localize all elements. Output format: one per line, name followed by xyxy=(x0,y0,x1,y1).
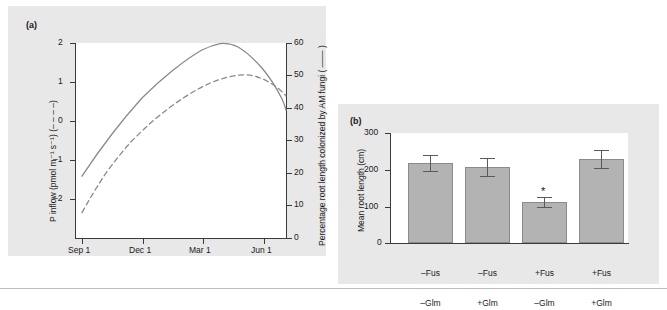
caption-divider xyxy=(0,288,667,289)
error-bar-cap-top-4 xyxy=(594,150,609,151)
xcat-label-3: +Fus –Glm xyxy=(522,248,567,310)
xcat-label-3-line2: –Glm xyxy=(522,298,567,308)
panel-b-tag: (b) xyxy=(350,116,362,126)
error-bar-cap-bottom-1 xyxy=(423,171,438,172)
xcat-label-1-line2: –Glm xyxy=(408,298,453,308)
bar-plus-fus-minus-glm[interactable] xyxy=(522,202,567,243)
bar-minus-fus-plus-glm[interactable] xyxy=(465,167,510,243)
error-bar-line-1 xyxy=(430,155,431,171)
xcat-label-4: +Fus +Glm xyxy=(579,248,624,310)
panel-b-y-ticklabel-200: 200 xyxy=(364,165,378,174)
error-bar-cap-bottom-3 xyxy=(537,207,552,208)
bar-minus-fus-minus-glm[interactable] xyxy=(408,163,453,243)
xcat-label-3-line1: +Fus xyxy=(522,268,567,278)
error-bar-cap-top-1 xyxy=(423,155,438,156)
panel-b: (b) 300 200 100 0 Mean root length (cm) xyxy=(338,104,659,284)
xcat-label-4-line2: +Glm xyxy=(579,298,624,308)
xcat-label-2: –Fus +Glm xyxy=(465,248,510,310)
panel-a: (a) 2 1 0 –1 –2 60 50 40 30 20 10 0 xyxy=(8,6,326,256)
xcat-label-2-line2: +Glm xyxy=(465,298,510,308)
panel-b-y-axis xyxy=(390,133,391,244)
xcat-label-4-line1: +Fus xyxy=(579,268,624,278)
error-bar-line-4 xyxy=(601,150,602,168)
panel-b-y-ticklabel-300: 300 xyxy=(364,128,378,137)
panel-b-y-tick-0 xyxy=(385,243,390,244)
panel-b-y-tick-100 xyxy=(385,207,390,208)
error-bar-line-2 xyxy=(487,158,488,176)
series-colonization-line xyxy=(82,43,286,176)
error-bar-line-3 xyxy=(544,197,545,207)
panel-a-curves xyxy=(8,6,326,256)
series-p-inflow-line xyxy=(82,75,286,213)
error-bar-cap-bottom-2 xyxy=(480,176,495,177)
panel-b-y-ticklabel-0: 0 xyxy=(377,238,382,247)
significance-asterisk: * xyxy=(541,187,545,196)
panel-b-y-tick-200 xyxy=(385,170,390,171)
error-bar-cap-bottom-4 xyxy=(594,168,609,169)
panel-b-x-axis xyxy=(390,243,629,244)
error-bar-cap-top-2 xyxy=(480,158,495,159)
error-bar-cap-top-3 xyxy=(537,197,552,198)
xcat-label-1-line1: –Fus xyxy=(408,268,453,278)
bar-plus-fus-plus-glm[interactable] xyxy=(579,159,624,243)
xcat-label-1: –Fus –Glm xyxy=(408,248,453,310)
panel-b-y-axis-title: Mean root length (cm) xyxy=(356,149,366,232)
panel-b-y-ticklabel-100: 100 xyxy=(364,202,378,211)
panel-b-y-tick-300 xyxy=(385,133,390,134)
xcat-label-2-line1: –Fus xyxy=(465,268,510,278)
